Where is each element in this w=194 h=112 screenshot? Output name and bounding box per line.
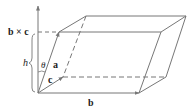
parallelepiped-edges <box>59 16 186 93</box>
parallelepiped-hidden-edges <box>63 16 166 77</box>
normal-vector-label: b × c <box>8 26 29 37</box>
vector-b-label: b <box>88 97 94 108</box>
vector-a-label: a <box>53 59 58 70</box>
angle-theta-label: θ <box>41 60 46 70</box>
parallelepiped-diagram: b × c h θ a c b <box>0 0 194 112</box>
vector-c-label: c <box>48 74 53 85</box>
height-label: h <box>23 57 28 68</box>
angle-arc <box>38 71 45 72</box>
height-brace <box>29 34 35 92</box>
